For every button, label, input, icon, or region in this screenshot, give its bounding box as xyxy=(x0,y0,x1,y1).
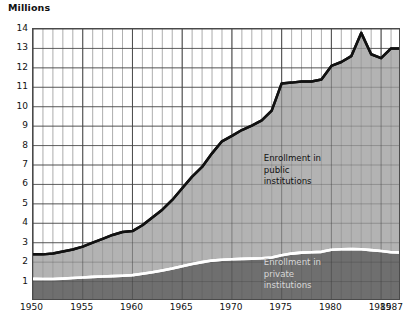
x-axis: 195019551960196519701975198019851987 xyxy=(0,303,420,321)
chart-figure: Millions 1413121110987654321 Enrollment … xyxy=(0,0,420,327)
x-tick-label: 1950 xyxy=(20,303,43,312)
series-label-public: Enrollment in public institutions xyxy=(264,153,321,187)
y-tick-label: 8 xyxy=(2,140,28,149)
x-tick-label: 1980 xyxy=(319,303,342,312)
x-tick-label: 1965 xyxy=(170,303,193,312)
y-tick-label: 11 xyxy=(2,82,28,91)
y-tick-label: 14 xyxy=(2,24,28,33)
y-tick-label: 3 xyxy=(2,237,28,246)
y-tick-label: 6 xyxy=(2,179,28,188)
series-label-private: Enrollment in private institutions xyxy=(264,257,321,291)
y-tick-label: 4 xyxy=(2,218,28,227)
y-tick-label: 5 xyxy=(2,198,28,207)
y-tick-label: 2 xyxy=(2,257,28,266)
plot-area: Enrollment in public institutions Enroll… xyxy=(32,28,400,300)
y-tick-label: 7 xyxy=(2,160,28,169)
area-series xyxy=(33,29,400,300)
y-tick-label: 1 xyxy=(2,276,28,285)
x-tick-label: 1970 xyxy=(219,303,242,312)
y-tick-label: 13 xyxy=(2,43,28,52)
y-tick-label: 9 xyxy=(2,121,28,130)
y-axis-units-label: Millions xyxy=(8,2,50,13)
x-tick-label: 1955 xyxy=(70,303,93,312)
y-tick-label: 10 xyxy=(2,101,28,110)
y-tick-label: 12 xyxy=(2,62,28,71)
series-layer xyxy=(33,29,399,299)
x-tick-label: 1975 xyxy=(269,303,292,312)
x-tick-label: 1987 xyxy=(380,303,403,312)
y-axis: 1413121110987654321 xyxy=(0,28,28,300)
x-tick-label: 1960 xyxy=(120,303,143,312)
